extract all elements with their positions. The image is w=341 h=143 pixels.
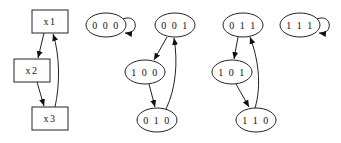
state-101-label: 1 0 1 — [218, 67, 246, 78]
state-011: 0 1 1 — [223, 13, 263, 37]
edge-x2-x3 — [37, 82, 44, 106]
state-001: 0 0 1 — [155, 13, 195, 37]
diagram-canvas: x1 x2 x3 0 0 0 0 0 1 1 0 0 — [0, 0, 341, 143]
state-011-label: 0 1 1 — [229, 20, 257, 31]
state-010-label: 0 1 0 — [143, 115, 171, 126]
state-001-label: 0 0 1 — [161, 20, 189, 31]
state-111: 1 1 1 — [280, 13, 320, 37]
edge-011-101 — [234, 37, 238, 59]
state-111-label: 1 1 1 — [286, 20, 314, 31]
edge-001-100 — [154, 37, 167, 60]
edge-100-010 — [149, 84, 155, 107]
state-000-label: 0 0 0 — [92, 20, 120, 31]
node-x2-label: x2 — [26, 65, 39, 76]
state-000: 0 0 0 — [86, 13, 126, 37]
node-x1: x1 — [32, 10, 68, 33]
state-010: 0 1 0 — [137, 108, 177, 132]
state-101: 1 0 1 — [212, 60, 252, 84]
state-110-label: 1 1 0 — [242, 115, 270, 126]
edge-x1-x2 — [38, 33, 44, 58]
state-110: 1 1 0 — [236, 108, 276, 132]
node-x3: x3 — [32, 107, 68, 130]
node-x2: x2 — [14, 59, 50, 82]
edge-010-001 — [166, 38, 176, 109]
variable-graph: x1 x2 x3 — [14, 10, 68, 130]
state-100-label: 1 0 0 — [131, 67, 159, 78]
node-x3-label: x3 — [44, 113, 57, 124]
edge-x3-x1 — [53, 34, 59, 107]
edge-101-110 — [236, 84, 249, 107]
state-graph: 0 0 0 0 0 1 1 0 0 0 1 0 0 1 1 1 0 1 — [86, 13, 329, 132]
node-x1-label: x1 — [44, 16, 57, 27]
state-100: 1 0 0 — [125, 60, 165, 84]
